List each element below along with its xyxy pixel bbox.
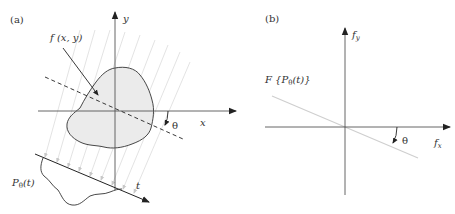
- x-axis-label: x: [200, 117, 206, 128]
- fx-axis-label: fx: [433, 137, 442, 150]
- y-axis-label: y: [122, 13, 129, 24]
- theta-label-b: θ: [402, 135, 408, 146]
- panel-a: (a) y x f (x, y) θ t Pθ(t): [10, 12, 236, 205]
- panel-b-label: (b): [265, 13, 279, 24]
- diagram-canvas: (a) y x f (x, y) θ t Pθ(t) (b) fy fx θ F…: [0, 0, 455, 214]
- theta-arc: [165, 111, 168, 125]
- t-axis-label: t: [136, 180, 141, 191]
- panel-b: (b) fy fx θ F {Pθ(t)}: [264, 13, 450, 195]
- fy-axis-label: fy: [351, 29, 361, 42]
- projection-label: Pθ(t): [11, 177, 35, 190]
- theta-label-a: θ: [172, 120, 178, 131]
- panel-a-label: (a): [10, 14, 24, 25]
- object-shape: [67, 67, 154, 148]
- object-label: f (x, y): [49, 32, 82, 43]
- theta-arc-b: [393, 127, 397, 143]
- fourier-slice-label: F {Pθ(t)}: [264, 74, 311, 87]
- projection-profile: [41, 158, 122, 205]
